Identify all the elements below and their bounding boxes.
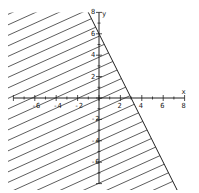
svg-text:-2: -2 <box>75 102 83 110</box>
svg-text:6: 6 <box>91 30 95 38</box>
svg-text:-6: -6 <box>91 158 99 166</box>
svg-text:6: 6 <box>160 102 164 110</box>
svg-text:2: 2 <box>117 102 121 110</box>
svg-text:4: 4 <box>91 51 95 59</box>
svg-text:8: 8 <box>182 102 186 110</box>
svg-text:-6: -6 <box>32 102 40 110</box>
inequality-graph: -6-4-22468-6-4-22468 x y <box>0 0 199 193</box>
svg-text:-4: -4 <box>91 137 99 145</box>
svg-text:4: 4 <box>139 102 143 110</box>
svg-text:-2: -2 <box>91 115 99 123</box>
y-axis-label: y <box>102 10 106 18</box>
svg-text:-4: -4 <box>53 102 61 110</box>
svg-text:2: 2 <box>91 73 95 81</box>
svg-text:8: 8 <box>91 8 95 16</box>
x-axis-label: x <box>182 88 186 96</box>
